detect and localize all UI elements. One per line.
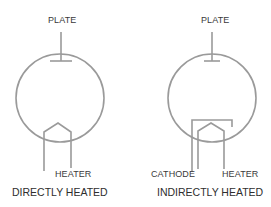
directly-heated-tube (16, 32, 104, 171)
tube-envelope (16, 54, 104, 142)
heater-label: HEATER (55, 169, 91, 179)
plate-label: PLATE (48, 15, 76, 25)
tube-envelope (168, 54, 256, 142)
directly-heated-caption: DIRECTLY HEATED (12, 186, 108, 198)
plate-label: PLATE (201, 15, 229, 25)
cathode-label: CATHODE (151, 169, 195, 179)
indirectly-heated-caption: INDIRECTLY HEATED (157, 186, 263, 198)
filament-heater (44, 123, 71, 171)
heater-label: HEATER (222, 169, 258, 179)
indirectly-heated-tube (168, 32, 256, 172)
heater-element (198, 123, 224, 169)
